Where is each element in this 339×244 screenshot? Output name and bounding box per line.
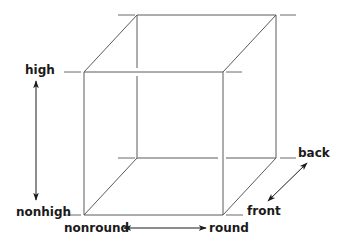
label-front: front — [247, 205, 281, 217]
label-round: round — [209, 222, 249, 234]
label-back: back — [298, 147, 330, 159]
depth-axis-arrow — [268, 163, 307, 201]
cube-depth-edges — [84, 15, 276, 215]
tick-marks — [64, 15, 296, 215]
cube-front-face — [84, 72, 223, 215]
cube-diagram: high nonhigh nonround round back front — [0, 0, 339, 244]
label-nonhigh: nonhigh — [16, 206, 71, 218]
label-nonround: nonround — [64, 222, 129, 234]
cube-back-face — [137, 15, 276, 158]
label-high: high — [25, 64, 55, 76]
